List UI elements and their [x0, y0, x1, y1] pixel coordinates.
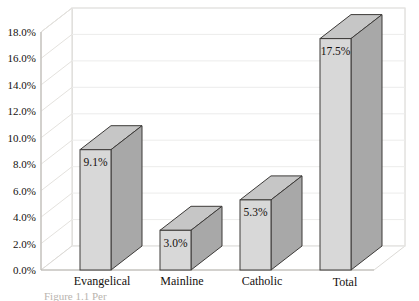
column-chart-3d: 18.0% 16.0% 14.0% 12.0% 10.0% 8.0% 6.0% …	[0, 0, 419, 301]
bar-side-face	[351, 15, 382, 270]
y-tick-label: 6.0%	[13, 185, 36, 197]
y-tick-label: 4.0%	[13, 211, 36, 223]
chart-figure: 18.0% 16.0% 14.0% 12.0% 10.0% 8.0% 6.0% …	[0, 0, 419, 301]
bar-front-face	[320, 39, 351, 270]
x-tick-label: Evangelical	[74, 274, 131, 288]
bar-evangelical[interactable]: 9.1%	[80, 126, 142, 270]
y-tick-label: 8.0%	[13, 158, 36, 170]
bar-value-label: 17.5%	[321, 45, 351, 57]
x-tick-label: Catholic	[242, 274, 283, 288]
figure-caption-clipped: Figure 1.1 Per	[44, 290, 107, 301]
y-tick-label: 12.0%	[8, 105, 36, 117]
y-tick-label: 0.0%	[13, 264, 36, 276]
y-tick-label: 2.0%	[13, 238, 36, 250]
x-tick-label: Total	[333, 275, 358, 289]
x-axis-tick-labels: Evangelical Mainline Catholic Total	[74, 274, 358, 289]
bar-value-label: 3.0%	[164, 237, 188, 249]
y-tick-label: 14.0%	[8, 79, 36, 91]
left-side-wall	[41, 8, 72, 270]
bar-value-label: 9.1%	[84, 156, 108, 168]
bar-value-label: 5.3%	[244, 206, 268, 218]
y-tick-label: 16.0%	[8, 52, 36, 64]
y-tick-label: 10.0%	[8, 132, 36, 144]
bar-side-face	[111, 126, 142, 270]
y-tick-label: 18.0%	[8, 26, 36, 38]
x-tick-label: Mainline	[160, 274, 203, 288]
bar-total[interactable]: 17.5%	[320, 15, 382, 270]
y-axis-tick-labels: 18.0% 16.0% 14.0% 12.0% 10.0% 8.0% 6.0% …	[8, 26, 36, 276]
